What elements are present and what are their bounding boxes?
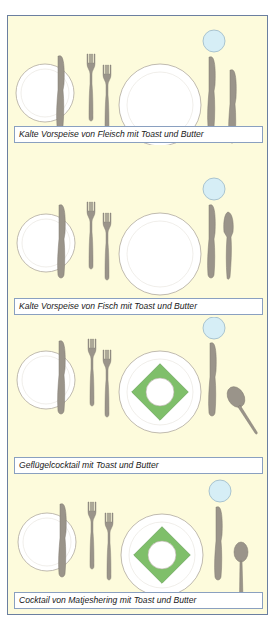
small-fork-icon xyxy=(87,202,95,269)
glass-icon xyxy=(209,480,231,502)
fork-icon xyxy=(103,65,111,132)
glass-icon xyxy=(203,30,225,52)
table-setting-2: Kalte Vorspeise von Fisch mit Toast und … xyxy=(0,145,278,317)
bread-plate-icon xyxy=(18,513,76,571)
knife-icon xyxy=(215,507,223,580)
caption-3: Geflügelcocktail mit Toast und Butter xyxy=(14,457,263,474)
table-setting-1: Kalte Vorspeise von Fleisch mit Toast un… xyxy=(0,0,278,145)
spoon-icon xyxy=(224,383,258,434)
fork-icon xyxy=(103,213,111,280)
glass-icon xyxy=(203,178,225,200)
caption-4: Cocktail von Matjeshering mit Toast und … xyxy=(14,592,263,609)
knife-icon xyxy=(208,57,216,130)
dinner-plate-icon xyxy=(119,213,201,295)
fork-small-icon xyxy=(88,502,96,569)
fork-icon xyxy=(105,513,113,580)
fish-knife-icon xyxy=(224,212,234,279)
knife-icon xyxy=(209,343,217,416)
fork-icon xyxy=(103,350,111,417)
bread-plate-icon xyxy=(16,64,74,122)
butter-knife-icon xyxy=(58,341,66,414)
knife-icon xyxy=(208,205,216,278)
butter-knife-icon xyxy=(58,205,66,278)
small-fork-icon xyxy=(88,339,96,406)
bread-plate-icon xyxy=(17,351,75,409)
table-setting-3: Geflügelcocktail mit Toast und Butter xyxy=(0,317,278,477)
bread-plate-icon xyxy=(17,214,75,272)
caption-2: Kalte Vorspeise von Fisch mit Toast und … xyxy=(14,298,263,315)
table-setting-4: Cocktail von Matjeshering mit Toast und … xyxy=(0,477,278,626)
small-fork-icon xyxy=(87,54,95,121)
butter-knife-icon xyxy=(59,504,67,577)
caption-1: Kalte Vorspeise von Fleisch mit Toast un… xyxy=(14,126,263,143)
glass-icon xyxy=(203,317,225,339)
